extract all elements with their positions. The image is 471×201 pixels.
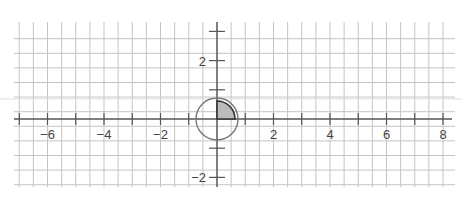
x-axis-labels: −6−4−22468 bbox=[40, 127, 447, 142]
x-tick-label: 4 bbox=[326, 127, 333, 142]
x-tick-label: 8 bbox=[439, 127, 446, 142]
x-tick-label: 6 bbox=[383, 127, 390, 142]
y-tick-label: −2 bbox=[191, 170, 206, 185]
x-tick-label: 2 bbox=[270, 127, 277, 142]
x-tick-label: −2 bbox=[153, 127, 168, 142]
y-tick-label: 2 bbox=[199, 54, 206, 69]
x-tick-label: −6 bbox=[40, 127, 55, 142]
coordinate-plane: −6−4−22468 2−2 bbox=[0, 0, 471, 201]
x-tick-label: −4 bbox=[97, 127, 112, 142]
grid-lines bbox=[14, 22, 455, 187]
